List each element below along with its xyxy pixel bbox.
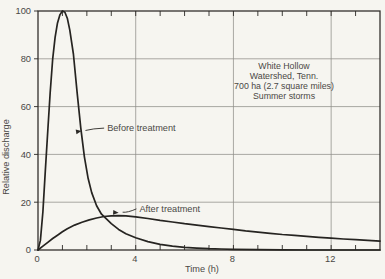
x-tick-label: 4 <box>132 254 137 264</box>
chart-canvas: Before treatmentAfter treatmentWhite Hol… <box>0 0 385 279</box>
curve-label-before-treatment: Before treatment <box>107 123 176 133</box>
y-tick-label: 60 <box>21 102 31 112</box>
x-tick-label: 8 <box>230 254 235 264</box>
curve-label-after-treatment: After treatment <box>139 204 200 214</box>
watershed-annotation-line: White Hollow <box>258 61 310 71</box>
y-tick-label: 100 <box>15 6 31 16</box>
hydrograph-figure: Before treatmentAfter treatmentWhite Hol… <box>0 0 385 279</box>
y-tick-label: 0 <box>26 245 31 255</box>
x-tick-label: 12 <box>325 254 335 264</box>
watershed-annotation-line: Summer storms <box>253 91 316 101</box>
watershed-annotation-line: 700 ha (2.7 square miles) <box>234 81 334 91</box>
x-axis-title: Time (h) <box>185 264 219 274</box>
watershed-annotation-line: Watershed, Tenn. <box>250 71 318 81</box>
y-tick-label: 40 <box>21 150 31 160</box>
x-tick-label: 0 <box>34 254 39 264</box>
y-tick-label: 20 <box>21 198 31 208</box>
y-tick-label: 80 <box>21 54 31 64</box>
y-axis-title: Relative discharge <box>1 119 11 195</box>
